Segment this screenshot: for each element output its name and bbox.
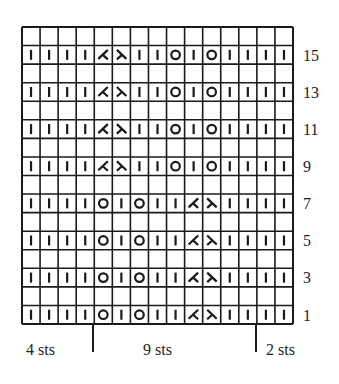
- row-number-9: 9: [303, 159, 311, 175]
- right-decrease-icon: [207, 198, 217, 208]
- repeat-divider-right: [255, 324, 257, 352]
- chart-cell-left-leaning-decrease: [189, 198, 199, 208]
- right-decrease-icon: [207, 273, 217, 283]
- right-decrease-icon: [117, 50, 127, 60]
- chart-cell-yarn-over: [135, 273, 144, 282]
- chart-cell-left-leaning-decrease: [98, 87, 108, 97]
- chart-cell-right-leaning-decrease: [207, 198, 217, 208]
- chart-cell-yarn-over: [135, 199, 144, 208]
- yarn-over-icon: [171, 51, 180, 60]
- left-decrease-icon: [98, 124, 108, 134]
- chart-grid-svg: [22, 27, 293, 324]
- chart-cell-left-leaning-decrease: [98, 124, 108, 134]
- right-decrease-icon: [117, 87, 127, 97]
- left-decrease-icon: [98, 87, 108, 97]
- left-decrease-icon: [189, 310, 199, 320]
- yarn-over-icon: [207, 88, 216, 97]
- chart-cell-yarn-over: [99, 236, 108, 245]
- chart-cell-right-leaning-decrease: [207, 273, 217, 283]
- stitch-count-repeat: 9 sts: [143, 341, 172, 359]
- chart-cell-yarn-over: [171, 51, 180, 60]
- yarn-over-icon: [171, 125, 180, 134]
- left-decrease-icon: [189, 198, 199, 208]
- chart-cell-right-leaning-decrease: [207, 235, 217, 245]
- row-number-1: 1: [303, 308, 311, 324]
- chart-cell-yarn-over: [99, 310, 108, 319]
- chart-cell-left-leaning-decrease: [189, 310, 199, 320]
- yarn-over-icon: [135, 199, 144, 208]
- right-decrease-icon: [117, 124, 127, 134]
- chart-cell-yarn-over: [135, 236, 144, 245]
- yarn-over-icon: [207, 51, 216, 60]
- right-decrease-icon: [207, 235, 217, 245]
- right-decrease-icon: [117, 161, 127, 171]
- yarn-over-icon: [135, 236, 144, 245]
- yarn-over-icon: [99, 310, 108, 319]
- chart-cell-left-leaning-decrease: [189, 235, 199, 245]
- yarn-over-icon: [207, 162, 216, 171]
- left-decrease-icon: [189, 273, 199, 283]
- stitch-count-right: 2 sts: [266, 341, 295, 359]
- chart-cell-right-leaning-decrease: [117, 161, 127, 171]
- row-number-5: 5: [303, 233, 311, 249]
- chart-cell-yarn-over: [207, 162, 216, 171]
- chart-cell-right-leaning-decrease: [207, 310, 217, 320]
- yarn-over-icon: [171, 88, 180, 97]
- left-decrease-icon: [189, 235, 199, 245]
- chart-cell-right-leaning-decrease: [117, 50, 127, 60]
- yarn-over-icon: [135, 273, 144, 282]
- yarn-over-icon: [99, 236, 108, 245]
- chart-cell-left-leaning-decrease: [98, 161, 108, 171]
- chart-cell-yarn-over: [207, 125, 216, 134]
- stitch-count-left: 4 sts: [26, 341, 55, 359]
- row-number-13: 13: [303, 85, 319, 101]
- row-number-11: 11: [303, 122, 318, 138]
- chart-cell-yarn-over: [135, 310, 144, 319]
- chart-cell-yarn-over: [171, 88, 180, 97]
- repeat-divider-left: [92, 324, 94, 352]
- chart-cell-yarn-over: [99, 273, 108, 282]
- chart-cell-yarn-over: [99, 199, 108, 208]
- chart-cell-yarn-over: [171, 125, 180, 134]
- row-number-7: 7: [303, 196, 311, 212]
- row-number-15: 15: [303, 48, 319, 64]
- row-number-3: 3: [303, 270, 311, 286]
- chart-cell-yarn-over: [207, 51, 216, 60]
- yarn-over-icon: [99, 199, 108, 208]
- left-decrease-icon: [98, 50, 108, 60]
- yarn-over-icon: [171, 162, 180, 171]
- chart-cell-yarn-over: [207, 88, 216, 97]
- left-decrease-icon: [98, 161, 108, 171]
- chart-cell-left-leaning-decrease: [189, 273, 199, 283]
- yarn-over-icon: [207, 125, 216, 134]
- chart-cell-yarn-over: [171, 162, 180, 171]
- knitting-chart-grid: [22, 27, 293, 324]
- yarn-over-icon: [135, 310, 144, 319]
- right-decrease-icon: [207, 310, 217, 320]
- chart-cell-left-leaning-decrease: [98, 50, 108, 60]
- chart-cell-right-leaning-decrease: [117, 87, 127, 97]
- yarn-over-icon: [99, 273, 108, 282]
- chart-cell-right-leaning-decrease: [117, 124, 127, 134]
